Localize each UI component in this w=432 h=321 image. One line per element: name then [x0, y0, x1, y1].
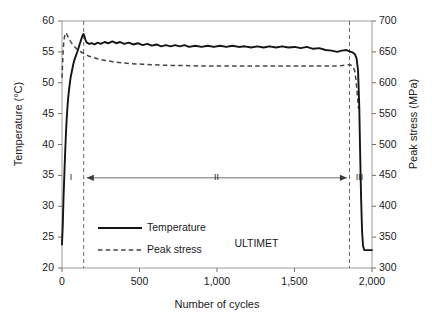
legend-label-1: Peak stress: [147, 243, 202, 255]
y-right-tick-600: 600: [379, 76, 409, 88]
y-right-tick-500: 500: [379, 138, 409, 150]
legend-sample-lines: [98, 228, 142, 250]
y-right-tick-400: 400: [379, 199, 409, 211]
y-left-tick-35: 35: [26, 168, 54, 180]
y-left-tick-30: 30: [26, 199, 54, 211]
y-axis-left-title: Temperature (°C): [12, 54, 24, 194]
plot-canvas: [0, 0, 432, 321]
y-axis-left-ticks: [58, 21, 62, 268]
y-right-tick-650: 650: [379, 45, 409, 57]
x-axis-ticks: [62, 268, 372, 272]
x-tick-500: 500: [118, 275, 162, 287]
chart-figure: Temperature (°C) Peak stress (MPa) Numbe…: [0, 0, 432, 321]
x-axis-title: Number of cycles: [62, 298, 372, 310]
y-axis-right-ticks: [372, 21, 376, 268]
x-tick-1,500: 1,500: [273, 275, 317, 287]
x-tick-2,000: 2,000: [350, 275, 394, 287]
stage-boundary-lines: [84, 21, 350, 268]
y-right-tick-450: 450: [379, 168, 409, 180]
x-tick-1,000: 1,000: [195, 275, 239, 287]
y-right-tick-550: 550: [379, 107, 409, 119]
legend-label-0: Temperature: [147, 221, 206, 233]
region-label-III: III: [356, 172, 364, 182]
axes-frame: [62, 21, 372, 268]
region-label-I: I: [70, 172, 73, 182]
region-label-II: II: [214, 172, 219, 182]
y-right-tick-700: 700: [379, 14, 409, 26]
y-right-tick-350: 350: [379, 230, 409, 242]
y-left-tick-50: 50: [26, 76, 54, 88]
y-left-tick-55: 55: [26, 45, 54, 57]
x-tick-0: 0: [40, 275, 84, 287]
y-left-tick-25: 25: [26, 230, 54, 242]
y-right-tick-300: 300: [379, 261, 409, 273]
material-label: ULTIMET: [234, 237, 278, 249]
y-left-tick-40: 40: [26, 138, 54, 150]
series-peak-stress-line: [62, 33, 359, 109]
y-left-tick-45: 45: [26, 107, 54, 119]
y-left-tick-20: 20: [26, 261, 54, 273]
y-left-tick-60: 60: [26, 14, 54, 26]
